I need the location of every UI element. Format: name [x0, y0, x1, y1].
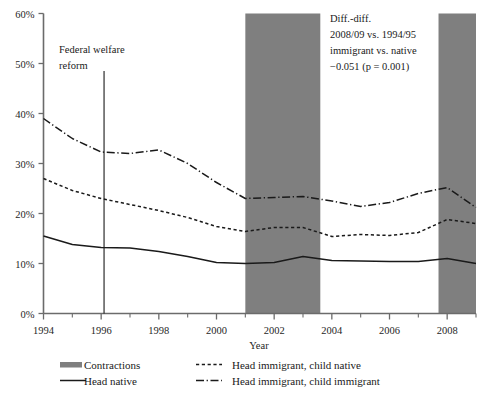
legend-label: Contractions: [84, 359, 140, 371]
legend-label: Head immigrant, child native: [232, 359, 361, 371]
x-axis-tick-label: 2004: [321, 325, 343, 336]
legend-item: Contractions: [60, 359, 140, 371]
y-axis-tick-label: 10%: [15, 259, 35, 270]
recession-band-1: [245, 14, 320, 314]
legend-label: Head native: [84, 375, 137, 387]
recession-band-2: [439, 14, 476, 314]
legend-swatch-band: [60, 362, 82, 368]
y-axis-tick-label: 30%: [15, 159, 35, 170]
x-axis-tick-label: 2006: [379, 325, 400, 336]
annotation-line-3: immigrant vs. native: [330, 45, 417, 56]
y-axis-tick-label: 0%: [21, 309, 35, 320]
annotation-line-1: Diff.-diff.: [330, 13, 371, 24]
annotation-line-2: 2008/09 vs. 1994/95: [330, 29, 416, 40]
legend-item: Head immigrant, child native: [196, 359, 361, 371]
x-axis-tick-label: 2000: [206, 325, 227, 336]
x-axis-tick-label: 2002: [264, 325, 285, 336]
welfare-reform-label-line-1: Federal welfare: [59, 44, 125, 55]
x-axis-title: Year: [249, 340, 269, 351]
recession-bands-group: [245, 14, 476, 314]
welfare-reform-label-line-2: reform: [59, 60, 88, 71]
legend-label: Head immigrant, child immigrant: [232, 375, 380, 387]
line-chart: 0%10%20%30%40%50%60% 1994199619982000200…: [0, 0, 488, 402]
x-axis-tick-label: 1996: [91, 325, 112, 336]
x-axis-tick-label: 1998: [148, 325, 169, 336]
y-axis-tick-label: 50%: [15, 59, 35, 70]
x-axis-ticks-group: 19941996199820002002200420062008: [33, 314, 476, 336]
legend-item: Head native: [60, 375, 137, 387]
y-axis-tick-label: 20%: [15, 209, 35, 220]
y-axis-tick-label: 60%: [15, 9, 35, 20]
x-axis-tick-label: 2008: [437, 325, 458, 336]
legend-item: Head immigrant, child immigrant: [196, 375, 380, 387]
legend-group: ContractionsHead immigrant, child native…: [60, 359, 380, 387]
y-axis-ticks-group: 0%10%20%30%40%50%60%: [15, 9, 43, 320]
annotation-line-4: −0.051 (p = 0.001): [330, 61, 410, 73]
y-axis-tick-label: 40%: [15, 109, 35, 120]
chart-container: 0%10%20%30%40%50%60% 1994199619982000200…: [0, 0, 488, 402]
x-axis-tick-label: 1994: [33, 325, 55, 336]
